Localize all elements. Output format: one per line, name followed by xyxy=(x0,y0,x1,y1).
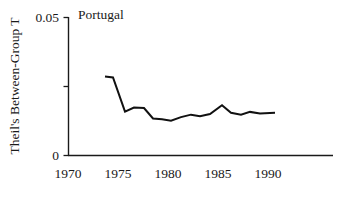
x-tick-label-1975: 1975 xyxy=(105,166,132,181)
x-tick-label-1985: 1985 xyxy=(205,166,232,181)
x-tick-label-1980: 1980 xyxy=(155,166,182,181)
series-line-portugal xyxy=(105,77,275,121)
y-tick-label-top: 0.05 xyxy=(35,10,59,25)
y-tick-label-bottom: 0 xyxy=(52,148,59,163)
chart-figure: 0.05 0 Theil's Between-Group T Portugal … xyxy=(0,0,339,198)
chart-title: Portugal xyxy=(78,7,124,22)
line-chart: 0.05 0 Theil's Between-Group T Portugal … xyxy=(0,0,339,198)
x-tick-label-1990: 1990 xyxy=(255,166,282,181)
y-axis-label: Theil's Between-Group T xyxy=(7,17,22,155)
x-tick-label-1970: 1970 xyxy=(55,166,82,181)
